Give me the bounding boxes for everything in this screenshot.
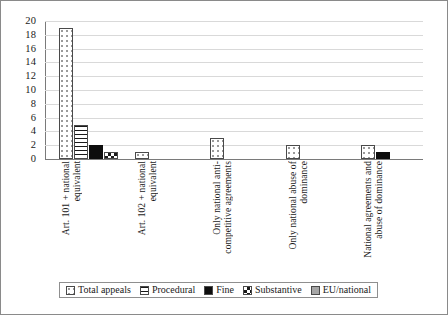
x-axis-category: Art. 102 + national equivalent: [121, 161, 197, 271]
bar-group: [45, 21, 121, 159]
legend-item-substantive[interactable]: Substantive: [243, 285, 302, 295]
bar-group: [121, 21, 197, 159]
bar-total-appeals[interactable]: [135, 152, 149, 159]
bar-group: [347, 21, 423, 159]
x-axis-category: Art. 101 + national equivalent: [45, 161, 121, 271]
bar-total-appeals[interactable]: [361, 145, 375, 159]
legend-item-fine[interactable]: Fine: [204, 285, 234, 295]
legend-swatch-icon: [311, 286, 320, 295]
legend-item-procedural[interactable]: Procedural: [140, 285, 195, 295]
y-axis-tick-label: 16: [25, 43, 36, 54]
y-axis-tick-label: 10: [25, 85, 36, 96]
legend-label: Total appeals: [78, 285, 131, 295]
chart-figure: 02468101214161820 Art. 101 + national eq…: [0, 0, 448, 315]
y-axis-tick-label: 20: [25, 16, 36, 27]
y-axis-tick-label: 8: [31, 99, 36, 110]
bar-fine[interactable]: [376, 152, 390, 159]
chart-legend: Total appealsProceduralFineSubstantiveEU…: [59, 282, 378, 298]
y-axis-tick-label: 12: [25, 71, 36, 82]
x-axis-category-label: Art. 102 + national equivalent: [137, 161, 159, 235]
legend-label: Substantive: [255, 285, 302, 295]
legend-swatch-icon: [66, 286, 75, 295]
x-axis-category-label: Art. 101 + national equivalent: [61, 161, 83, 235]
legend-swatch-icon: [243, 286, 252, 295]
plot-area: [45, 21, 423, 159]
legend-item-total-appeals[interactable]: Total appeals: [66, 285, 131, 295]
x-axis-category-label: National agreements and abuse of dominan…: [363, 161, 385, 258]
x-axis-category: Only national abuse of dominance: [272, 161, 348, 271]
y-axis-tick-label: 14: [25, 57, 36, 68]
y-axis-tick-label: 0: [31, 154, 36, 165]
legend-label: Procedural: [152, 285, 195, 295]
y-axis-tick-label: 2: [31, 140, 36, 151]
legend-swatch-icon: [204, 286, 213, 295]
y-axis-tick-label: 18: [25, 30, 36, 41]
bar-procedural[interactable]: [74, 125, 88, 160]
x-axis-category-label: Only national abuse of dominance: [288, 161, 310, 249]
bar-total-appeals[interactable]: [59, 28, 73, 159]
bar-total-appeals[interactable]: [286, 145, 300, 159]
bar-total-appeals[interactable]: [210, 138, 224, 159]
legend-label: Fine: [216, 285, 234, 295]
bar-group: [196, 21, 272, 159]
y-axis-tick-label: 4: [31, 126, 36, 137]
bar-substantive[interactable]: [104, 152, 118, 159]
y-axis-tick-labels: 02468101214161820: [1, 21, 41, 159]
legend-swatch-icon: [140, 286, 149, 295]
x-axis-category-labels: Art. 101 + national equivalentArt. 102 +…: [45, 161, 423, 271]
x-axis-category: Only national anti- competitive agreemen…: [196, 161, 272, 271]
x-axis-category-label: Only national anti- competitive agreemen…: [212, 161, 234, 254]
legend-item-eu-national[interactable]: EU/national: [311, 285, 371, 295]
x-axis-category: National agreements and abuse of dominan…: [347, 161, 423, 271]
bar-group: [272, 21, 348, 159]
bar-fine[interactable]: [89, 145, 103, 159]
y-axis-tick-label: 6: [31, 112, 36, 123]
legend-label: EU/national: [323, 285, 371, 295]
bar-groups: [45, 21, 423, 159]
